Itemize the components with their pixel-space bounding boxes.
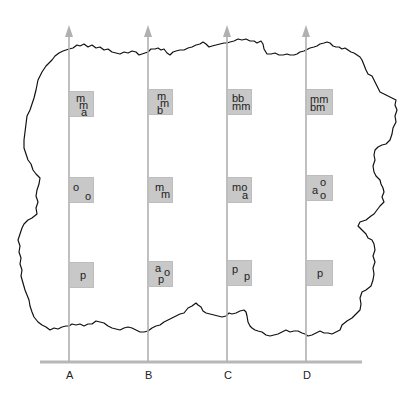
axis-label-D: D [303, 369, 311, 381]
token: mm [232, 101, 250, 112]
token: o [73, 182, 79, 193]
token: p [80, 270, 86, 281]
arrowhead-icon [223, 25, 231, 37]
box-D-row2: a o o [306, 175, 333, 201]
token: a [81, 107, 87, 118]
box-D-row1: mm bm [306, 89, 333, 115]
token: a [312, 185, 318, 196]
token: m [161, 189, 170, 200]
token: b [157, 105, 163, 116]
diagram-canvas: m m a o o p m m b m m a o p bb mm mo a p… [0, 0, 417, 405]
box-A-row3: p [69, 262, 94, 288]
token: p [317, 268, 323, 279]
box-B-row1: m m b [148, 89, 173, 115]
box-B-row3: a o p [148, 261, 173, 287]
box-C-row3: p p [227, 260, 252, 286]
token: p [158, 274, 164, 285]
axis-label-A: A [66, 369, 73, 381]
token: p [244, 271, 250, 282]
token: o [164, 267, 170, 278]
token: a [242, 190, 248, 201]
arrowhead-icon [302, 25, 310, 37]
box-A-row1: m m a [69, 91, 94, 117]
box-B-row2: m m [148, 177, 173, 203]
token: o [320, 190, 326, 201]
token: o [320, 177, 326, 188]
token: bm [310, 102, 325, 113]
arrowhead-icon [65, 25, 73, 37]
diagram-graphics [0, 0, 417, 405]
token: o [85, 191, 91, 202]
token: p [232, 264, 238, 275]
box-C-row1: bb mm [227, 89, 252, 115]
box-A-row2: o o [69, 177, 94, 203]
box-C-row2: mo a [227, 177, 252, 203]
axis-label-B: B [145, 369, 152, 381]
arrowhead-icon [144, 25, 152, 37]
axis-label-C: C [224, 369, 232, 381]
box-D-row3: p [306, 260, 333, 286]
